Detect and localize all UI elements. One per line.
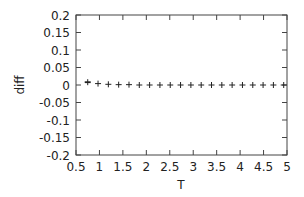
x-tick-label: 1 (96, 160, 104, 174)
data-point-marker (136, 82, 142, 88)
data-point-marker (147, 82, 153, 88)
data-point-marker (95, 81, 101, 87)
data-point-marker (178, 82, 184, 88)
y-tick-label: 0.1 (51, 44, 70, 58)
y-tick-label: 0.15 (43, 26, 70, 40)
y-tick-label: -0.2 (47, 149, 70, 163)
data-point-marker (281, 82, 287, 88)
data-point-marker (260, 82, 266, 88)
data-points (85, 79, 287, 88)
data-point-marker (219, 82, 225, 88)
data-point-marker (105, 81, 111, 87)
data-point-marker (126, 82, 132, 88)
y-tick-label: 0.2 (51, 9, 70, 23)
y-tick-label: -0.1 (47, 114, 70, 128)
data-point-marker (116, 82, 122, 88)
x-tick-label: 1.5 (113, 160, 132, 174)
data-point-marker (209, 82, 215, 88)
x-tick-label: 3 (189, 160, 197, 174)
x-tick-label: 5 (283, 160, 291, 174)
x-tick-label: 2.5 (160, 160, 179, 174)
y-tick-label: -0.15 (39, 131, 70, 145)
data-point-marker (250, 82, 256, 88)
data-point-marker (167, 82, 173, 88)
y-axis-label: diff (13, 75, 27, 95)
x-tick-label: 3.5 (207, 160, 226, 174)
data-point-marker (198, 82, 204, 88)
y-tick-label: 0.05 (43, 61, 70, 75)
x-axis-label: T (176, 178, 185, 192)
data-point-marker (239, 82, 245, 88)
data-point-marker (229, 82, 235, 88)
scatter-chart: 0.511.522.533.544.55 0.20.150.10.050-0.0… (0, 0, 304, 197)
x-tick-label: 2 (143, 160, 151, 174)
x-tick-label: 4.5 (254, 160, 273, 174)
data-point-marker (85, 79, 91, 85)
y-tick-label: 0 (62, 79, 70, 93)
data-point-marker (188, 82, 194, 88)
data-point-marker (270, 82, 276, 88)
data-point-marker (157, 82, 163, 88)
x-tick-labels: 0.511.522.533.544.55 (66, 160, 290, 174)
x-tick-label: 4 (236, 160, 244, 174)
y-tick-labels: 0.20.150.10.050-0.05-0.1-0.15-0.2 (39, 9, 70, 163)
y-tick-label: -0.05 (39, 96, 70, 110)
